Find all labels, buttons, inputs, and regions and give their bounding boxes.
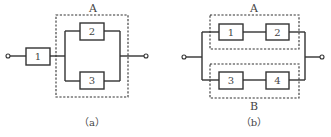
- circuit-diagrams: A 1 2 3 （a） A B 1: [0, 0, 331, 137]
- diagram-a: A 1 2 3 （a）: [6, 2, 148, 128]
- terminal-a-right-icon: [144, 54, 148, 58]
- component-a-2-label: 2: [89, 26, 95, 37]
- terminal-b-left-icon: [182, 55, 186, 59]
- component-b-3-label: 3: [228, 75, 234, 86]
- component-a-3-label: 3: [89, 75, 95, 86]
- group-a-label: A: [88, 2, 98, 15]
- diagram-b: A B 1 2 3 4 （b）: [182, 2, 324, 128]
- terminal-b-right-icon: [320, 55, 324, 59]
- caption-b: （b）: [241, 117, 267, 128]
- component-b-2-label: 2: [274, 27, 280, 38]
- component-b-4-label: 4: [274, 75, 280, 86]
- terminal-a-left-icon: [6, 54, 10, 58]
- component-a-1-label: 1: [35, 51, 41, 62]
- group-b-top-label: A: [249, 2, 259, 15]
- caption-a: （a）: [79, 117, 105, 128]
- component-b-1-label: 1: [228, 27, 234, 38]
- group-b-bottom-label: B: [250, 100, 258, 113]
